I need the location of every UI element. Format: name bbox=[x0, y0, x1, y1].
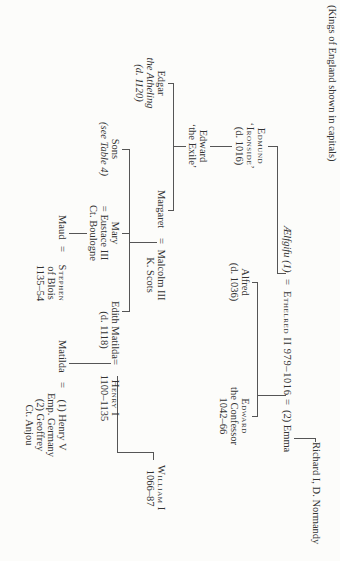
line bbox=[69, 233, 87, 234]
marriage-sign: = bbox=[57, 246, 68, 252]
person-malcolm-iii: Malcolm III K. Scots bbox=[145, 249, 167, 300]
person-edith-matilda: Edith Matilda (d. 1118) bbox=[99, 301, 121, 359]
line bbox=[69, 363, 111, 364]
person-emma: (2) Emma bbox=[282, 410, 293, 452]
table-caption: (Kings of England shown in capitals) bbox=[327, 5, 338, 162]
line bbox=[258, 395, 286, 396]
document-page: (Kings of England shown in capitals) Ric… bbox=[0, 0, 340, 561]
person-maud: Maud bbox=[57, 215, 68, 240]
person-mary: Mary = Eustace III Ct. Boulogne bbox=[88, 205, 121, 261]
marriage-sign: = bbox=[282, 279, 293, 285]
line bbox=[118, 452, 154, 453]
line bbox=[268, 146, 278, 147]
line bbox=[252, 282, 258, 283]
line bbox=[174, 146, 186, 147]
marriage-sign: = bbox=[110, 359, 121, 365]
person-matilda: Matilda bbox=[57, 340, 68, 373]
marriage-sign: = bbox=[156, 238, 167, 244]
line bbox=[130, 242, 157, 243]
line bbox=[294, 438, 316, 439]
person-margaret: Margaret bbox=[156, 190, 167, 228]
line bbox=[153, 452, 154, 460]
line bbox=[257, 282, 258, 417]
person-sons: Sons (see Table 4) bbox=[99, 122, 121, 176]
person-edward-the-exile: Edward ‘the Exile’ bbox=[187, 124, 209, 169]
person-edgar-the-atheling: Edgar the Atheling (d. 1120) bbox=[134, 58, 167, 109]
line bbox=[210, 146, 232, 147]
person-stephen-of-blois: Stephen of Blois 1135–54 bbox=[35, 265, 68, 302]
person-richard-i: Richard I, D. Normandy bbox=[311, 442, 322, 544]
marriage-sign: = bbox=[282, 399, 293, 405]
person-aelfgifu: Ælfgifu (1) bbox=[282, 226, 293, 272]
line bbox=[122, 149, 130, 150]
line bbox=[129, 149, 130, 312]
line bbox=[122, 233, 130, 234]
marriage-sign: = bbox=[57, 382, 68, 388]
line bbox=[315, 438, 316, 442]
line bbox=[122, 311, 130, 312]
line bbox=[168, 83, 174, 84]
line bbox=[278, 273, 286, 274]
person-alfred: Alfred (d. 1036) bbox=[229, 263, 251, 302]
line bbox=[168, 210, 174, 211]
person-edward-the-confessor: Edward the Confessor 1042–66 bbox=[218, 387, 251, 445]
line bbox=[277, 146, 278, 274]
genealogy-table: (Kings of England shown in capitals) Ric… bbox=[0, 0, 340, 561]
line bbox=[252, 416, 258, 417]
person-ethelred-ii: Ethelred II 979–1016 bbox=[282, 291, 293, 396]
person-henry-i: Henry I 1100–1135 bbox=[99, 375, 121, 421]
person-william-i: William I 1066–87 bbox=[145, 465, 167, 511]
line bbox=[173, 83, 174, 211]
person-edmund-ironside: Edmund ‘Ironside’ (d. 1016) bbox=[234, 123, 267, 170]
person-henry-v-and-geoffrey: (1) Henry V Emp. Germany (2) Geoffrey Ct… bbox=[24, 393, 68, 457]
